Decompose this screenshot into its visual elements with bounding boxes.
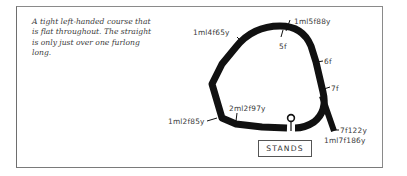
marker-7f: 7f xyxy=(331,84,339,93)
winning-post-icon xyxy=(288,115,295,131)
stands-label: STANDS xyxy=(258,140,312,157)
marker-5f: 5f xyxy=(279,42,287,51)
marker-1ml4f65y: 1ml4f65y xyxy=(193,28,230,37)
marker-6f: 6f xyxy=(324,57,332,66)
racecourse-map: 1ml4f65y 1ml5f88y 5f 6f 7f 7f122y 1ml7f1… xyxy=(0,0,407,176)
marker-1ml5f88y: 1ml5f88y xyxy=(294,17,331,26)
marker-7f122y: 7f122y xyxy=(340,126,367,135)
marker-2ml2f97y: 2ml2f97y xyxy=(229,104,266,113)
marker-1ml2f85y: 1ml2f85y xyxy=(168,117,205,126)
marker-1ml7f186y: 1ml7f186y xyxy=(324,136,366,145)
